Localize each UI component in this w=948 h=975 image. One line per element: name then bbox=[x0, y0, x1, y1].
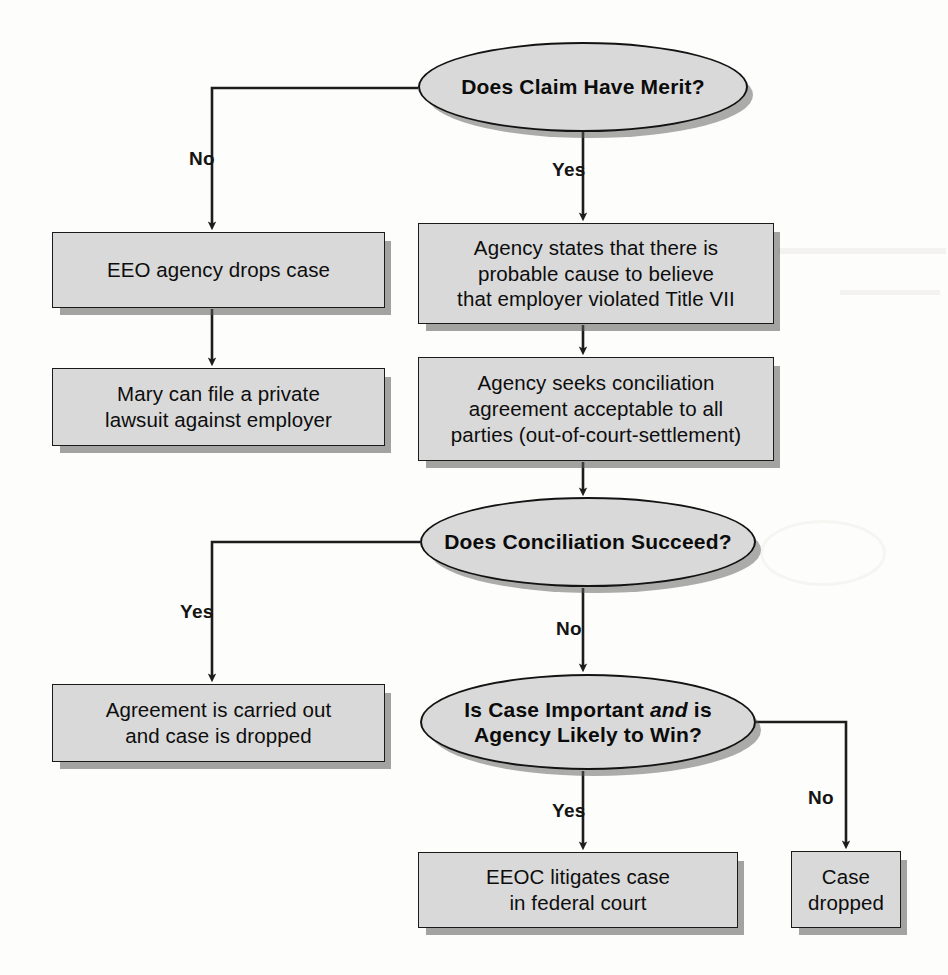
edge-label-conciliation-yes: Yes bbox=[180, 601, 214, 623]
node-line: Agency seeks conciliation bbox=[477, 371, 714, 394]
edge-label-important-no: No bbox=[808, 787, 834, 809]
node-line: Case bbox=[822, 865, 870, 888]
node-label: Agency seeks conciliation agreement acce… bbox=[451, 370, 741, 447]
node-label: Is Case Important and is Agency Likely t… bbox=[464, 697, 712, 747]
node-label: EEO agency drops case bbox=[107, 257, 330, 283]
decision-is-case-important[interactable]: Is Case Important and is Agency Likely t… bbox=[420, 674, 756, 770]
node-label: EEOC litigates case in federal court bbox=[486, 864, 670, 916]
node-agency-probable-cause[interactable]: Agency states that there is probable cau… bbox=[418, 223, 774, 324]
node-line: Is Case Important and is bbox=[464, 698, 712, 721]
node-line: that employer violated Title VII bbox=[457, 287, 735, 310]
decision-does-conciliation-succeed[interactable]: Does Conciliation Succeed? bbox=[420, 497, 756, 587]
node-eeo-agency-drops-case[interactable]: EEO agency drops case bbox=[52, 232, 385, 308]
node-line: dropped bbox=[808, 891, 884, 914]
edge-label-merit-yes: Yes bbox=[552, 159, 586, 181]
node-line: Agency Likely to Win? bbox=[474, 723, 702, 746]
flowchart-canvas: Does Claim Have Merit? EEO agency drops … bbox=[0, 0, 948, 975]
node-case-dropped[interactable]: Case dropped bbox=[791, 851, 901, 928]
node-agreement-carried-out[interactable]: Agreement is carried out and case is dro… bbox=[52, 684, 385, 762]
node-mary-private-lawsuit[interactable]: Mary can file a private lawsuit against … bbox=[52, 368, 385, 446]
node-label: Does Claim Have Merit? bbox=[461, 74, 705, 99]
node-agency-seeks-conciliation[interactable]: Agency seeks conciliation agreement acce… bbox=[418, 357, 774, 461]
edge-important-no bbox=[756, 722, 846, 845]
flowchart-edges bbox=[0, 0, 948, 975]
node-line: Mary can file a private bbox=[117, 382, 320, 405]
node-label: Agency states that there is probable cau… bbox=[457, 235, 735, 312]
node-label: Does Conciliation Succeed? bbox=[444, 529, 732, 554]
node-line: parties (out-of-court-settlement) bbox=[451, 423, 741, 446]
node-line: and case is dropped bbox=[125, 724, 312, 747]
edge-label-merit-no: No bbox=[189, 148, 215, 170]
node-label: Agreement is carried out and case is dro… bbox=[106, 697, 332, 749]
edge-label-important-yes: Yes bbox=[552, 800, 586, 822]
decision-does-claim-have-merit[interactable]: Does Claim Have Merit? bbox=[418, 42, 748, 132]
node-label: Case dropped bbox=[808, 864, 884, 916]
edge-label-conciliation-no: No bbox=[556, 618, 582, 640]
node-label: Mary can file a private lawsuit against … bbox=[105, 381, 332, 433]
node-line: lawsuit against employer bbox=[105, 408, 332, 431]
node-line: EEOC litigates case bbox=[486, 865, 670, 888]
edge-merit-no bbox=[212, 88, 418, 226]
edge-conciliation-yes bbox=[212, 542, 420, 678]
node-line: probable cause to believe bbox=[478, 262, 714, 285]
node-line: in federal court bbox=[509, 891, 646, 914]
node-line: Agency states that there is bbox=[474, 236, 718, 259]
node-eeoc-litigates-case[interactable]: EEOC litigates case in federal court bbox=[418, 852, 738, 928]
node-line: Agreement is carried out bbox=[106, 698, 332, 721]
node-line: agreement acceptable to all bbox=[469, 397, 724, 420]
